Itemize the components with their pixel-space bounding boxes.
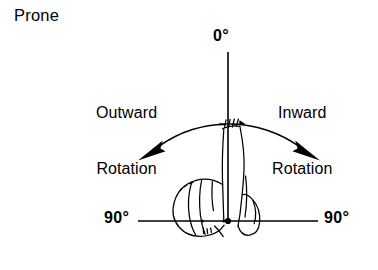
label-0-degrees: 0°	[213, 27, 229, 46]
label-90-degrees-left: 90°	[104, 209, 129, 228]
label-outward-rotation: Outward Rotation	[96, 66, 157, 217]
label-inward-rotation-line2: Rotation	[272, 160, 332, 179]
prone-leg-illustration-icon	[173, 119, 260, 237]
label-outward-rotation-line1: Outward	[96, 104, 157, 123]
figure-title: Prone	[14, 6, 59, 25]
arc-outward-path	[158, 124, 226, 147]
label-90-degrees-right: 90°	[324, 209, 349, 228]
rom-diagram-figure: Prone 0° Outward Rotation Inward Rotatio…	[0, 0, 378, 270]
label-inward-rotation: Inward Rotation	[272, 66, 332, 217]
label-inward-rotation-line1: Inward	[272, 104, 332, 123]
label-outward-rotation-line2: Rotation	[96, 160, 157, 179]
pivot-dot-icon	[225, 218, 231, 224]
